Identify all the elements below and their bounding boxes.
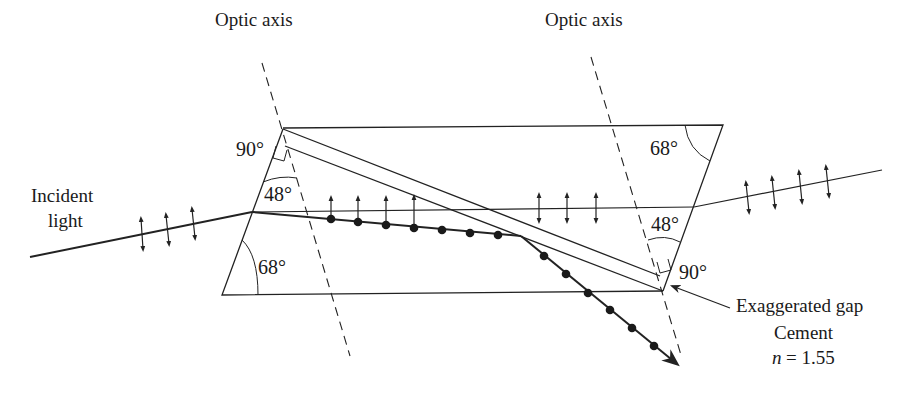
gap-pointer-arrow [672, 286, 730, 308]
transmitted-ray [694, 167, 882, 212]
refractive-index-symbol: n [772, 347, 782, 368]
e-ray [252, 195, 694, 227]
incident-label-line1: Incident [31, 185, 94, 206]
gap-label: Exaggerated gap [736, 295, 863, 316]
optic-axis-left-label: Optic axis [215, 9, 293, 30]
angle-label-tl-48: 48° [264, 183, 292, 205]
optic-axis-right [591, 57, 681, 355]
o-ray [252, 212, 677, 364]
angle-label-tr-68: 68° [650, 137, 678, 159]
incident-label-line2: light [48, 210, 84, 231]
angle-label-br-48: 48° [651, 213, 679, 235]
angle-label-bl-68: 68° [258, 256, 286, 278]
refractive-index-value: = 1.55 [786, 347, 835, 368]
optic-axis-right-label: Optic axis [545, 9, 623, 30]
angle-label-tl-90: 90° [236, 138, 264, 160]
angle-label-br-90: 90° [679, 261, 707, 283]
prism-diagram: Optic axis Optic axis Incident light 90°… [0, 0, 901, 393]
cement-label: Cement [774, 322, 834, 343]
optic-axis-left [262, 63, 350, 356]
